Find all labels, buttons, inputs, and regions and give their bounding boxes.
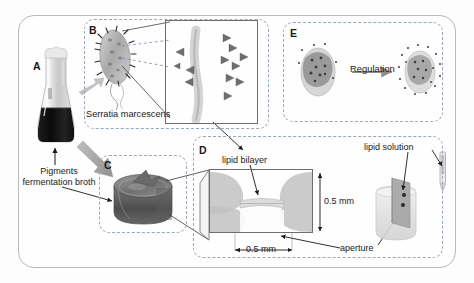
panel-letter-e: E — [290, 27, 297, 39]
pigments-label-line1: Pigments — [14, 166, 104, 177]
bilayer-image-frame — [209, 169, 313, 233]
lipid-solution-label: lipid solution — [364, 142, 414, 153]
horizontal-dimension-label: 0.5 mm — [246, 244, 276, 255]
vertical-dimension-label: 0.5 mm — [324, 196, 354, 207]
aperture-label: aperture — [340, 243, 374, 254]
regulation-label: Regulation — [350, 63, 395, 74]
panel-letter-d: D — [199, 144, 207, 156]
panel-letter-a: A — [33, 60, 41, 72]
magnification-inset-frame — [165, 20, 258, 124]
panel-letter-b: B — [89, 24, 97, 36]
species-label: Serratia marcescens — [86, 109, 170, 120]
panel-box-c — [99, 155, 187, 233]
lipid-bilayer-label: lipid bilayer — [222, 155, 267, 166]
pigments-label-line2: fermentation broth — [6, 177, 112, 188]
panel-letter-c: C — [104, 159, 112, 171]
figure-root: A — [0, 0, 474, 283]
